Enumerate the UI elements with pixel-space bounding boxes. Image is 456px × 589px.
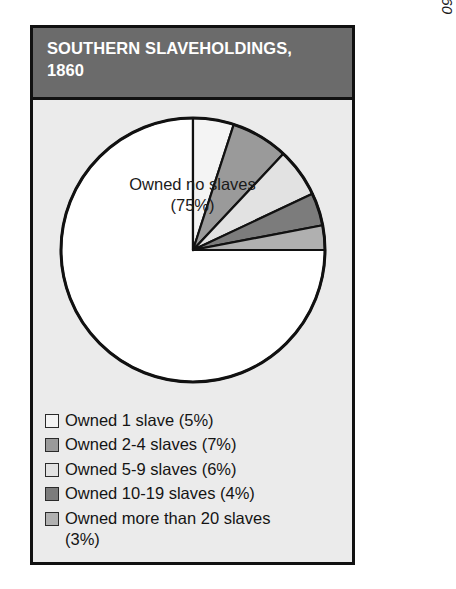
chart-panel: SOUTHERN SLAVEHOLDINGS, 1860 Owned no sl… [30, 25, 355, 565]
legend-swatch-icon [45, 463, 59, 477]
legend-item[interactable]: Owned 1 slave (5%) [45, 410, 342, 431]
legend-swatch-icon [45, 487, 59, 501]
legend-item-label: Owned more than 20 slaves (3%) [65, 508, 270, 551]
legend-item[interactable]: Owned 2-4 slaves (7%) [45, 434, 342, 455]
pie-chart-area: Owned no slaves (75%) [33, 100, 352, 400]
chart-title-bar: SOUTHERN SLAVEHOLDINGS, 1860 [33, 28, 352, 100]
legend-item[interactable]: Owned more than 20 slaves (3%) [45, 508, 342, 551]
legend-item[interactable]: Owned 5-9 slaves (6%) [45, 459, 342, 480]
legend-item[interactable]: Owned 10-19 slaves (4%) [45, 483, 342, 504]
source-credit: Source: Compendium of the Eighth Census,… [439, 0, 456, 14]
legend-swatch-icon [45, 438, 59, 452]
source-title-label: Compendium of the Eighth Census, 1860 [439, 0, 456, 14]
legend-item-label: Owned 2-4 slaves (7%) [65, 434, 237, 455]
legend-item-label: Owned 5-9 slaves (6%) [65, 459, 237, 480]
legend-swatch-icon [45, 414, 59, 428]
page-title: SOUTHERN SLAVEHOLDINGS, 1860 [47, 38, 340, 82]
legend-item-label: Owned 10-19 slaves (4%) [65, 483, 255, 504]
pie-chart-svg [54, 111, 332, 389]
chart-legend: Owned 1 slave (5%) Owned 2-4 slaves (7%)… [33, 410, 352, 554]
legend-item-label: Owned 1 slave (5%) [65, 410, 214, 431]
legend-swatch-icon [45, 512, 59, 526]
